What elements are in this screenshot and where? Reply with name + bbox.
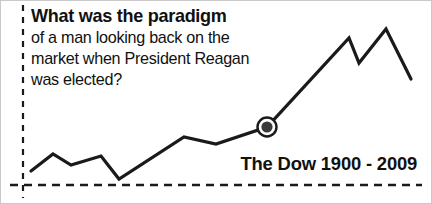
- reagan-election-marker-dot: [261, 121, 272, 132]
- caption-block: What was the paradigm of a man looking b…: [31, 5, 301, 90]
- caption-line-3: was elected?: [31, 69, 288, 90]
- series-label: The Dow 1900 - 2009: [240, 153, 417, 175]
- caption-headline: What was the paradigm: [31, 5, 288, 27]
- caption-line-1: of a man looking back on the: [31, 27, 288, 48]
- cartoon-chart-figure: What was the paradigm of a man looking b…: [0, 0, 432, 204]
- caption-line-2: market when President Reagan: [31, 48, 288, 69]
